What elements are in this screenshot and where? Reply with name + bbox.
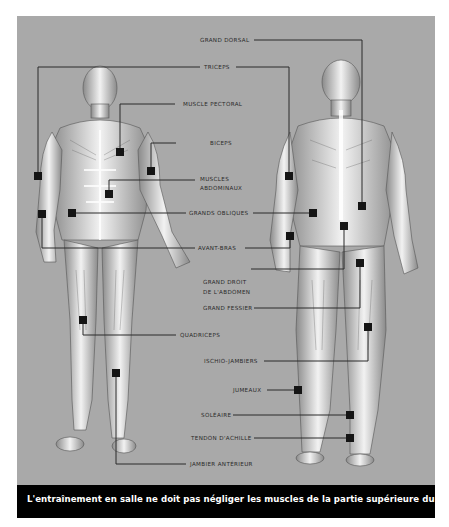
front-figure [36,66,190,453]
anatomy-diagram-panel: GRAND DORSAL TRICEPS MUSCLE PECTORAL BIC… [17,16,435,485]
label-grand-dorsal: GRAND DORSAL [200,36,250,44]
label-biceps: BICEPS [210,139,232,147]
label-jumeaux: JUMEAUX [233,386,261,394]
label-muscles-abdominaux-line1: MUSCLES [200,175,229,183]
label-grands-obliques: GRANDS OBLIQUES [189,209,248,217]
label-ischio-jambiers: ISCHIO-JAMBIERS [204,357,258,365]
label-muscle-pectoral: MUSCLE PECTORAL [183,100,242,108]
figure-caption: L'entraînement en salle ne doit pas négl… [27,494,449,504]
label-grand-droit-line1: GRAND DROIT [203,278,247,286]
label-muscles-abdominaux-line2: ABDOMINAUX [200,184,242,192]
label-grand-droit-line2: DE L'ABDOMEN [203,288,250,296]
label-jambier-anterieur: JAMBIER ANTÉRIEUR [190,460,253,468]
label-avant-bras: AVANT-BRAS [198,244,236,252]
label-soleaire: SOLÉAIRE [201,411,231,419]
label-triceps: TRICEPS [204,63,230,71]
caption-bar: L'entraînement en salle ne doit pas négl… [17,485,435,518]
label-tendon-achille: TENDON D'ACHILLE [191,434,252,442]
label-quadriceps: QUADRICEPS [180,331,220,339]
label-grand-fessier: GRAND FESSIER [203,304,253,312]
